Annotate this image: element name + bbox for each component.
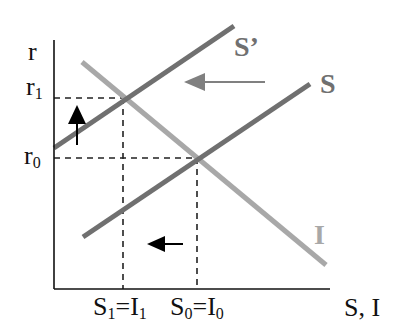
s1-subscript: 1 xyxy=(107,305,115,322)
r0-subscript: 0 xyxy=(33,154,41,171)
s0-base: S xyxy=(170,292,184,321)
r0-base: r xyxy=(24,141,33,170)
x-axis-label: S, I xyxy=(344,293,380,322)
i0-base: =I xyxy=(192,292,215,321)
arrow-left-icon xyxy=(147,236,165,252)
quantity-down-arrow xyxy=(147,236,183,252)
r1-base: r xyxy=(26,72,35,101)
i1-subscript: 1 xyxy=(139,305,147,322)
supply-shifted-label: S’ xyxy=(234,31,259,62)
s1-base: S xyxy=(93,292,107,321)
r1-label: r1 xyxy=(26,72,43,102)
y-axis-label: r xyxy=(28,37,37,66)
investment-curve xyxy=(82,62,326,265)
r1-subscript: 1 xyxy=(35,85,43,102)
r0-guide-lines xyxy=(54,158,197,289)
i1-base: =I xyxy=(115,292,138,321)
arrow-up-icon xyxy=(68,105,86,124)
s0-subscript: 0 xyxy=(184,305,192,322)
arrow-left-icon xyxy=(184,73,205,91)
supply-shift-arrow xyxy=(184,73,265,91)
i0-subscript: 0 xyxy=(216,305,224,322)
s0-i0-label: S0=I0 xyxy=(170,292,224,322)
supply-original-label: S xyxy=(320,68,336,99)
saving-investment-diagram: r S, I r1 r0 S1=I1 S0=I0 S’ S I xyxy=(0,0,402,334)
investment-label: I xyxy=(314,219,325,250)
supply-curve-shifted xyxy=(54,26,234,148)
s1-i1-label: S1=I1 xyxy=(93,292,147,322)
r0-label: r0 xyxy=(24,141,41,171)
